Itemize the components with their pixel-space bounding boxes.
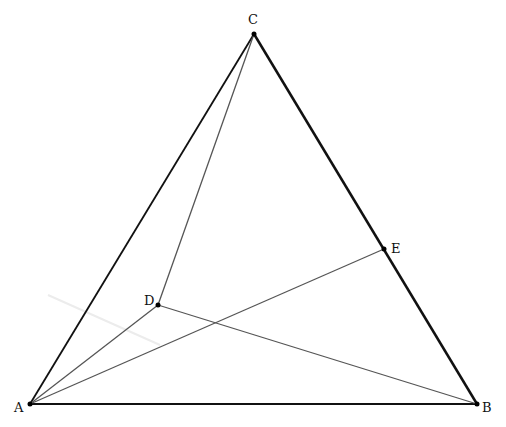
point-b — [475, 402, 480, 407]
point-e — [382, 247, 387, 252]
point-c — [252, 32, 257, 37]
edge-ca — [30, 34, 254, 404]
label-e: E — [391, 241, 401, 256]
point-d — [156, 303, 161, 308]
segment-db — [158, 305, 477, 404]
diagram-canvas: A B C D E — [0, 0, 506, 427]
label-b: B — [482, 400, 492, 415]
edge-bc — [254, 34, 477, 404]
label-c: C — [248, 12, 258, 27]
label-a: A — [13, 400, 24, 415]
label-d: D — [144, 293, 154, 308]
point-a — [28, 402, 33, 407]
segment-ae — [30, 249, 384, 404]
segment-ad — [30, 305, 158, 404]
geometry-diagram: A B C D E — [0, 0, 506, 427]
